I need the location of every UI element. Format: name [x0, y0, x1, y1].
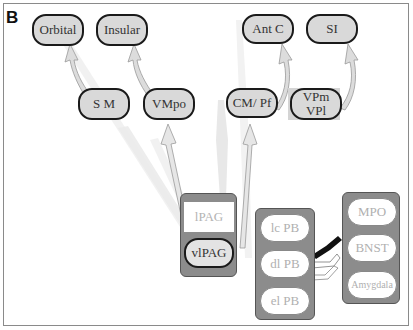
node-lcpb-label: lc PB	[271, 221, 300, 235]
arrow-pb-to-bnst-white-2	[312, 266, 338, 280]
node-lpag: lPAG	[184, 202, 234, 232]
node-bnst: BNST	[347, 234, 397, 262]
node-antc-label: Ant C	[252, 22, 283, 36]
node-bnst-label: BNST	[355, 241, 388, 255]
arrow-vpm-to-si	[340, 44, 358, 110]
node-mpo-label: MPO	[358, 205, 386, 219]
node-insular-label: Insular	[104, 23, 140, 37]
node-cmpf: CM/ Pf	[226, 88, 278, 118]
faint-arrow-lpag-up	[216, 100, 228, 198]
node-si-label: SI	[326, 22, 338, 36]
node-dlpb-label: dl PB	[270, 257, 299, 271]
node-vpl-label: VPl	[306, 104, 326, 118]
node-vpm-vpl: VPm VPl	[290, 88, 342, 120]
node-amygdala-label: Amygdala	[351, 280, 393, 291]
node-dlpb: dl PB	[260, 250, 310, 278]
node-cmpf-label: CM/ Pf	[233, 96, 272, 110]
node-sm: S M	[78, 88, 130, 120]
node-sm-label: S M	[93, 97, 115, 111]
node-mpo: MPO	[347, 198, 397, 226]
node-amygdala: Amygdala	[347, 271, 397, 299]
node-vmpo-label: VMpo	[152, 97, 186, 111]
node-vmpo: VMpo	[143, 88, 195, 120]
node-vlpag-label: vlPAG	[192, 246, 227, 260]
node-orbital-label: Orbital	[40, 23, 77, 37]
node-si: SI	[306, 14, 358, 44]
node-insular: Insular	[96, 14, 148, 46]
node-vpm-label: VPm	[303, 90, 330, 104]
arrow-vmpo-to-insular	[128, 44, 153, 96]
node-lpag-label: lPAG	[195, 209, 223, 225]
node-elpb-label: el PB	[271, 294, 300, 308]
node-lcpb: lc PB	[260, 214, 310, 242]
node-antc: Ant C	[242, 14, 294, 44]
node-orbital: Orbital	[32, 14, 84, 46]
node-vlpag: vlPAG	[184, 238, 234, 268]
node-elpb: el PB	[260, 287, 310, 315]
